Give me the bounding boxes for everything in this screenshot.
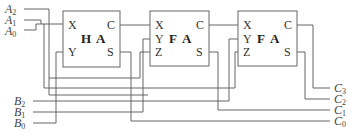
c-output-labels: C3 C2 C1 C0 <box>334 81 346 129</box>
ha-port-x: X <box>68 18 77 32</box>
full-adder-2-block: X Y Z C S F A <box>238 11 297 66</box>
a-input-labels: A2 A1 A0 <box>4 2 16 39</box>
fa1-title-f: F <box>169 31 177 46</box>
ha-title-a: A <box>96 31 106 46</box>
wire-fa2-c <box>297 25 330 88</box>
fa2-port-s: S <box>284 45 291 59</box>
full-adder-1-block: X Y Z C S F A <box>150 11 209 66</box>
adder-circuit-diagram: X Y C S H A X Y Z C S F A X Y Z C S F A … <box>0 0 359 137</box>
fa1-port-c: C <box>196 18 204 32</box>
ha-port-y: Y <box>68 45 77 59</box>
fa1-title-a: A <box>182 31 192 46</box>
fa2-port-c: C <box>284 18 292 32</box>
b-input-labels: B2 B1 B0 <box>14 94 25 131</box>
ha-title-h: H <box>81 31 91 46</box>
half-adder-block: X Y C S H A <box>63 11 120 67</box>
wire-fa2-s <box>297 52 330 99</box>
fa1-port-s: S <box>196 45 203 59</box>
fa2-port-z: Z <box>243 45 250 59</box>
ha-port-c: C <box>107 18 115 32</box>
fa2-port-y: Y <box>243 32 252 46</box>
fa1-port-z: Z <box>155 45 162 59</box>
fa1-port-x: X <box>155 18 164 32</box>
wire-a1 <box>24 20 41 24</box>
fa1-port-y: Y <box>155 32 164 46</box>
fa2-title-f: F <box>257 31 265 46</box>
wire-a0 <box>24 24 36 30</box>
fa2-port-x: X <box>243 18 252 32</box>
fa2-title-a: A <box>270 31 280 46</box>
ha-port-s: S <box>107 45 114 59</box>
